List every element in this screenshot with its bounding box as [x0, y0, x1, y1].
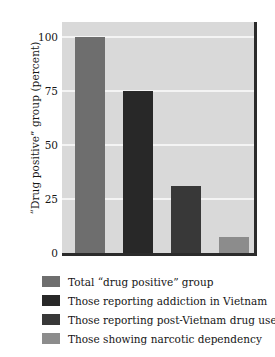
bar-1: [75, 37, 105, 253]
bar-3: [171, 186, 201, 253]
y-tick-label-50: 50: [6, 139, 58, 151]
chart-legend: Total “drug positive” groupThose reporti…: [42, 272, 272, 348]
legend-label-3: Those reporting post-Vietnam drug use: [68, 314, 275, 326]
legend-label-1: Total “drug positive” group: [68, 276, 213, 288]
legend-item-1: Total “drug positive” group: [42, 272, 272, 291]
y-axis-tick-labels: 0255075100: [0, 22, 58, 253]
plot-area: [62, 22, 257, 256]
legend-swatch-icon-1: [42, 276, 60, 287]
legend-label-4: Those showing narcotic dependency: [68, 333, 262, 345]
legend-item-2: Those reporting addiction in Vietnam: [42, 291, 272, 310]
bar-2: [123, 91, 153, 253]
legend-swatch-icon-2: [42, 295, 60, 306]
bar-4: [219, 237, 249, 253]
legend-swatch-icon-4: [42, 333, 60, 344]
y-tick-label-75: 75: [6, 85, 58, 97]
y-tick-label-0: 0: [6, 247, 58, 259]
bar-chart-figure: “Drug positive” group (percent) 02550751…: [0, 0, 275, 357]
legend-item-3: Those reporting post-Vietnam drug use: [42, 310, 272, 329]
legend-label-2: Those reporting addiction in Vietnam: [68, 295, 267, 307]
y-tick-label-25: 25: [6, 193, 58, 205]
legend-item-4: Those showing narcotic dependency: [42, 329, 272, 348]
legend-swatch-icon-3: [42, 314, 60, 325]
plot-inner: [62, 22, 254, 253]
y-tick-label-100: 100: [6, 31, 58, 43]
